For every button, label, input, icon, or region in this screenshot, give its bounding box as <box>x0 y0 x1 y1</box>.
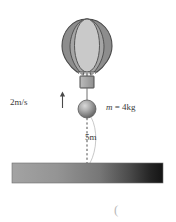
velocity-arrow-icon <box>60 92 65 109</box>
velocity-label: 2m/s <box>10 98 28 107</box>
mass-equals-sign: = <box>113 102 123 112</box>
physics-diagram-figure: 2m/s m = 4kg 5m ( <box>0 0 176 222</box>
mass-label: m = 4kg <box>106 103 136 112</box>
balloon-basket <box>80 76 94 88</box>
stray-parenthesis-artifact: ( <box>114 203 118 216</box>
ground-bar <box>12 163 163 183</box>
height-label: 5m <box>85 133 97 142</box>
diagram-canvas <box>0 0 176 222</box>
mass-value: 4kg <box>122 102 136 112</box>
balloon-center-gore <box>75 19 100 72</box>
balloon-envelope <box>62 19 112 72</box>
falling-mass-ball <box>78 100 96 118</box>
